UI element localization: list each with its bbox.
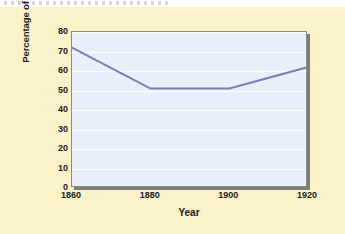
y-axis-tick-label: 80 xyxy=(46,26,68,36)
y-axis-tick-labels: 01020304050607080 xyxy=(46,31,68,187)
y-axis-tick-label: 60 xyxy=(46,65,68,75)
y-axis-tick-label: 10 xyxy=(46,163,68,173)
x-axis-title: Year xyxy=(71,207,307,218)
x-axis-tick-label: 1860 xyxy=(48,190,94,200)
y-axis-tick-label: 70 xyxy=(46,46,68,56)
y-axis-title: Percentage of Average U.S. Per Capita In… xyxy=(13,0,49,64)
data-line-series xyxy=(72,32,307,187)
y-axis-tick-label: 40 xyxy=(46,104,68,114)
y-axis-tick-label: 30 xyxy=(46,124,68,134)
x-axis-tick-label: 1900 xyxy=(205,190,251,200)
plot-area-wrapper xyxy=(71,31,307,187)
x-axis-tick-label: 1920 xyxy=(284,190,330,200)
chart-figure: Percentage of Average U.S. Per Capita In… xyxy=(0,0,345,234)
y-axis-tick-label: 50 xyxy=(46,85,68,95)
x-axis-tick-label: 1880 xyxy=(127,190,173,200)
y-axis-tick-label: 20 xyxy=(46,143,68,153)
plot-area xyxy=(71,31,307,187)
cropped-text-artifact xyxy=(0,0,345,7)
x-axis-tick-labels: 1860188019001920 xyxy=(71,190,307,204)
